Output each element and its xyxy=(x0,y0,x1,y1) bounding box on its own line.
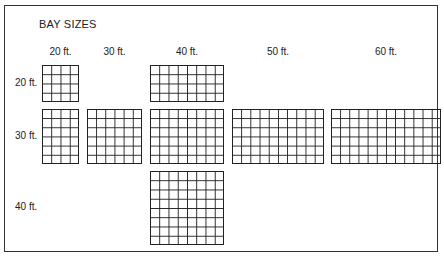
bay-30x30 xyxy=(87,109,142,164)
bay-50x30 xyxy=(232,109,324,164)
diagram-title: BAY SIZES xyxy=(39,18,97,30)
column-header-40: 40 ft. xyxy=(150,46,224,57)
column-header-20: 20 ft. xyxy=(42,46,79,57)
row-header-40: 40 ft. xyxy=(15,201,37,212)
column-header-60: 60 ft. xyxy=(331,46,441,57)
bay-40x40 xyxy=(150,171,224,245)
row-header-30: 30 ft. xyxy=(15,130,37,141)
column-header-50: 50 ft. xyxy=(232,46,324,57)
bay-20x30 xyxy=(42,109,79,164)
bay-60x30 xyxy=(331,109,441,164)
bay-40x30 xyxy=(150,109,224,164)
bay-20x20 xyxy=(42,65,79,102)
column-header-30: 30 ft. xyxy=(87,46,142,57)
bay-40x20 xyxy=(150,65,224,102)
row-header-20: 20 ft. xyxy=(15,77,37,88)
